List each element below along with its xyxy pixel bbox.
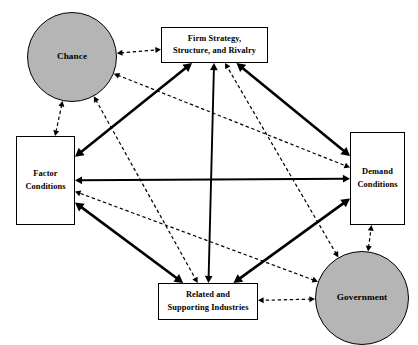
node-firm-strategy[interactable]: Firm Strategy, Structure, and Rivalry — [161, 27, 268, 63]
arrowhead-firm-related-vertical-start — [210, 63, 218, 70]
node-demand-conditions[interactable]: Demand Conditions — [350, 132, 405, 225]
edge-factor-related — [80, 206, 178, 279]
edge-chance-demand — [117, 75, 346, 166]
arrowhead-government-demand-end — [368, 225, 374, 231]
arrowhead-chance-factor-start — [58, 101, 64, 107]
node-firm-strategy-label-line2: Structure, and Rivalry — [173, 45, 256, 57]
edge-government-firm — [227, 66, 336, 254]
edge-firm-demand — [241, 67, 345, 152]
edge-factor-demand-horizontal — [80, 179, 345, 181]
node-chance[interactable]: Chance — [27, 12, 117, 102]
node-factor-conditions-label-line2: Conditions — [25, 181, 65, 193]
node-demand-conditions-label-line2: Conditions — [357, 179, 397, 191]
node-firm-strategy-label-line1: Firm Strategy, — [188, 33, 242, 45]
arrowhead-government-firm-end — [225, 63, 230, 69]
node-related-supporting-industries-label-line1: Related and — [186, 289, 230, 301]
edge-government-factor — [79, 193, 315, 280]
arrowhead-factor-demand-horizontal-end — [343, 175, 350, 183]
edge-chance-factor — [56, 105, 62, 132]
node-chance-label: Chance — [57, 50, 87, 63]
porter-diamond-diagram: Chance Firm Strategy, Structure, and Riv… — [0, 0, 418, 345]
edge-government-demand — [369, 229, 371, 248]
edge-chance-related — [96, 100, 196, 280]
node-related-supporting-industries[interactable]: Related and Supporting Industries — [158, 283, 258, 320]
edge-government-related — [262, 299, 311, 300]
node-government-label: Government — [337, 291, 388, 304]
edge-chance-firm — [121, 50, 157, 53]
arrowhead-firm-related-vertical-end — [205, 276, 213, 283]
node-demand-conditions-label-line1: Demand — [362, 166, 393, 178]
node-government[interactable]: Government — [315, 251, 409, 345]
node-factor-conditions-label-line1: Factor — [33, 168, 57, 180]
node-related-supporting-industries-label-line2: Supporting Industries — [168, 302, 249, 314]
arrowhead-government-factor-end — [75, 191, 81, 197]
arrowhead-chance-firm-start — [117, 50, 123, 56]
arrowhead-government-related-end — [258, 297, 264, 303]
node-factor-conditions[interactable]: Factor Conditions — [16, 136, 75, 225]
edge-firm-related-vertical — [209, 68, 214, 278]
arrowhead-factor-demand-horizontal-start — [75, 176, 82, 184]
